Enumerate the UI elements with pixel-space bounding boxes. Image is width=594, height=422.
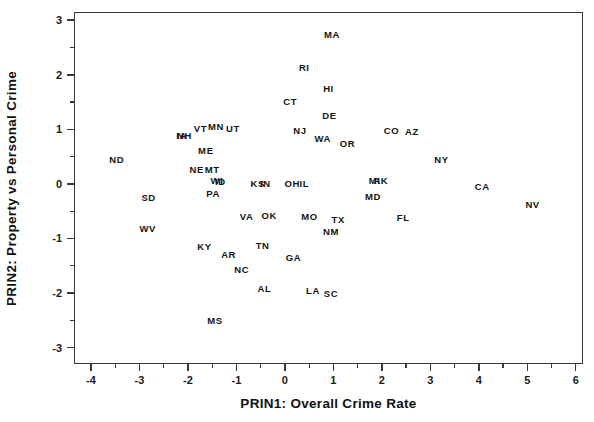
x-axis-title: PRIN1: Overall Crime Rate [74, 396, 583, 411]
y-tick-label: 2 [56, 69, 62, 81]
x-tick-label: 2 [379, 374, 385, 386]
y-tick [67, 129, 74, 131]
y-tick-minor [70, 265, 74, 266]
data-point-co: CO [384, 126, 399, 136]
x-tick-label: -2 [183, 374, 193, 386]
data-point-ok: OK [262, 211, 277, 221]
data-point-ma: MA [324, 31, 340, 41]
data-point-wa: WA [314, 134, 331, 144]
data-point-ia: IA [176, 131, 187, 141]
y-tick [67, 74, 74, 76]
data-point-az: AZ [405, 127, 419, 137]
x-tick [381, 364, 383, 371]
data-point-oh: OH [284, 179, 299, 189]
data-point-mt: MT [205, 165, 220, 175]
x-tick [284, 364, 286, 371]
y-tick-label: 0 [56, 178, 62, 190]
data-point-nd: ND [109, 155, 124, 165]
y-tick-label: 3 [56, 14, 62, 26]
data-point-ga: GA [286, 253, 301, 263]
x-tick [527, 364, 529, 371]
data-point-la: LA [306, 287, 320, 297]
x-tick-label: 5 [524, 374, 530, 386]
x-tick-label: -1 [232, 374, 242, 386]
data-point-in: IN [260, 179, 271, 189]
x-tick [139, 364, 141, 371]
data-point-tn: TN [256, 241, 270, 251]
x-tick-minor [357, 364, 358, 368]
x-tick-minor [405, 364, 406, 368]
x-tick-minor [260, 364, 261, 368]
x-tick [236, 364, 238, 371]
y-axis-title: PRIN2: Property vs Personal Crime [0, 12, 22, 364]
data-point-me: ME [198, 146, 213, 156]
x-tick-minor [502, 364, 503, 368]
x-tick-label: -3 [135, 374, 145, 386]
y-tick [67, 183, 74, 185]
x-tick [90, 364, 92, 371]
y-tick-label: -1 [52, 232, 62, 244]
y-tick [67, 347, 74, 349]
data-point-ar: AR [221, 251, 236, 261]
y-tick-minor [70, 101, 74, 102]
data-point-ri: RI [299, 63, 310, 73]
scatter-chart: -4-3-2-10123456-3-2-10123 MARIHICTDEMNVT… [0, 0, 594, 422]
x-tick-label: 1 [330, 374, 336, 386]
y-tick-minor [70, 47, 74, 48]
x-tick-label: 6 [573, 374, 579, 386]
data-point-de: DE [322, 111, 336, 121]
data-point-sd: SD [141, 193, 155, 203]
y-axis-title-text: PRIN2: Property vs Personal Crime [4, 71, 19, 306]
data-point-ky: KY [197, 242, 211, 252]
data-point-wv: WV [139, 224, 156, 234]
data-point-nm: NM [323, 227, 339, 237]
x-tick [187, 364, 189, 371]
x-tick-minor [163, 364, 164, 368]
y-tick-label: -3 [52, 342, 62, 354]
y-tick-label: 1 [56, 123, 62, 135]
data-point-nv: NV [525, 200, 539, 210]
data-point-ny: NY [434, 156, 448, 166]
data-point-id: ID [215, 178, 226, 188]
x-tick-minor [212, 364, 213, 368]
x-tick-minor [115, 364, 116, 368]
data-point-al: AL [258, 284, 272, 294]
data-point-ne: NE [189, 166, 203, 176]
x-tick [575, 364, 577, 371]
data-point-hi: HI [323, 85, 334, 95]
x-tick-label: 3 [427, 374, 433, 386]
x-tick [478, 364, 480, 371]
data-point-sc: SC [324, 289, 338, 299]
plot-area [74, 12, 583, 364]
data-point-ca: CA [475, 182, 490, 192]
x-tick [333, 364, 335, 371]
data-point-md: MD [365, 192, 381, 202]
data-point-or: OR [340, 139, 355, 149]
y-tick [67, 292, 74, 294]
x-tick-label: -4 [86, 374, 96, 386]
data-point-tx: TX [332, 215, 345, 225]
x-tick-label: 4 [476, 374, 482, 386]
data-point-nj: NJ [293, 126, 306, 136]
y-tick-minor [70, 320, 74, 321]
x-tick-minor [309, 364, 310, 368]
data-point-ms: MS [207, 316, 222, 326]
data-point-ut: UT [226, 125, 240, 135]
y-tick [67, 238, 74, 240]
x-tick [430, 364, 432, 371]
x-tick-minor [551, 364, 552, 368]
x-tick-minor [454, 364, 455, 368]
data-point-ct: CT [283, 97, 297, 107]
x-tick-label: 0 [282, 374, 288, 386]
y-tick [67, 19, 74, 21]
data-point-vt: VT [194, 125, 207, 135]
data-point-mo: MO [301, 212, 318, 222]
y-tick-minor [70, 211, 74, 212]
data-point-pa: PA [206, 190, 220, 200]
data-point-mn: MN [208, 122, 224, 132]
data-point-va: VA [240, 212, 254, 222]
data-point-il: IL [299, 179, 309, 189]
data-point-ak: AK [373, 176, 388, 186]
y-tick-minor [70, 156, 74, 157]
data-point-fl: FL [397, 213, 410, 223]
